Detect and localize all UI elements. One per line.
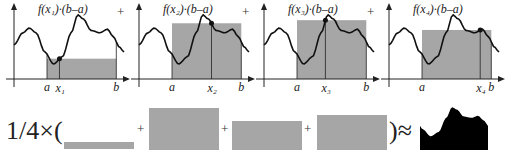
- plus-sign: +: [242, 4, 249, 19]
- panel-2: f(x₂)·(b–a)abx₂+: [117, 2, 255, 95]
- y-axis-arrow-icon: [261, 3, 267, 10]
- y-axis-arrow-icon: [386, 3, 392, 10]
- b-label: b: [238, 80, 244, 94]
- x-axis-arrow-icon: [123, 76, 130, 82]
- sample-x-label: x₄: [475, 81, 486, 95]
- plus-sign: +: [117, 4, 124, 19]
- riemann-rect: [172, 23, 241, 79]
- panel-title: f(x₃)·(b–a): [288, 2, 338, 16]
- x-axis-arrow-icon: [373, 76, 380, 82]
- panel-title: f(x₄)·(b–a): [413, 2, 463, 16]
- equation-rect-4: [317, 115, 387, 150]
- a-label: a: [44, 80, 50, 94]
- sample-x-label: x₂: [207, 81, 218, 95]
- b-label: b: [488, 80, 494, 94]
- sample-x-label: x₃: [320, 81, 331, 95]
- equation-plus-1: +: [137, 121, 144, 136]
- a-label: a: [419, 80, 425, 94]
- panel-4: f(x₄)·(b–a)abx₄+: [367, 2, 505, 95]
- x-axis-arrow-icon: [248, 76, 255, 82]
- sample-x-label: x₁: [54, 81, 65, 95]
- equation-plus-2: +: [221, 121, 228, 136]
- a-label: a: [294, 80, 300, 94]
- plus-sign: +: [367, 4, 374, 19]
- y-axis-arrow-icon: [11, 3, 17, 10]
- b-label: b: [113, 80, 119, 94]
- sample-point: [209, 21, 214, 26]
- panel-title: f(x₁)·(b–a): [38, 2, 88, 16]
- equation-rect-3: [232, 121, 302, 150]
- area-under-curve: [420, 107, 488, 150]
- sample-point: [57, 56, 62, 61]
- equation-rect-2: [149, 108, 219, 150]
- a-label: a: [169, 80, 175, 94]
- panel-1: f(x₁)·(b–a)abx₁: [6, 2, 130, 95]
- equation-row: 1/4×( + + + )≈: [6, 107, 488, 150]
- riemann-rect: [422, 30, 491, 79]
- equation-suffix: )≈: [389, 116, 412, 145]
- sample-point: [478, 27, 483, 32]
- b-label: b: [363, 80, 369, 94]
- function-curve: [14, 15, 124, 64]
- sample-point: [323, 18, 328, 23]
- panel-title: f(x₂)·(b–a): [163, 2, 213, 16]
- equation-rect-1: [64, 142, 134, 149]
- panel-3: f(x₃)·(b–a)abx₃+: [242, 2, 380, 95]
- riemann-average-diagram: f(x₁)·(b–a)abx₁f(x₂)·(b–a)abx₂+f(x₃)·(b–…: [0, 0, 506, 160]
- equation-prefix: 1/4×(: [6, 116, 63, 145]
- y-axis-arrow-icon: [136, 3, 142, 10]
- equation-plus-3: +: [304, 121, 311, 136]
- x-axis-arrow-icon: [498, 76, 505, 82]
